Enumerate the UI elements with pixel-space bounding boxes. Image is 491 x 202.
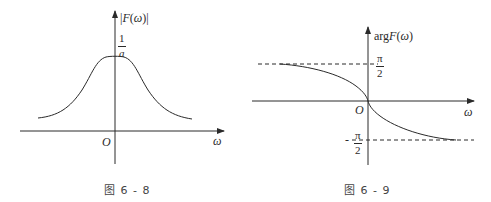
- x-axis-label: ω: [464, 106, 472, 118]
- tick-numerator: π: [354, 130, 362, 144]
- tick-numerator: π: [376, 53, 384, 67]
- figure-6-9-plot: [0, 0, 491, 202]
- y-tick-pi-over-2: π 2: [376, 53, 384, 79]
- y-tick-neg-pi-over-2: π 2: [354, 130, 362, 156]
- y-axis-label: argF(ω): [374, 30, 413, 42]
- tick-denominator: 2: [355, 144, 361, 157]
- figure-caption: 图 6 - 9: [344, 181, 390, 197]
- tick-denominator: 2: [377, 67, 383, 80]
- origin-label: O: [355, 104, 364, 116]
- y-tick-neg-sign: -: [345, 133, 349, 148]
